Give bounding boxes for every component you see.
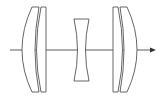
lens-element-2 (37, 7, 47, 92)
lens-diagram-svg (0, 0, 165, 101)
axis-arrow-icon (150, 48, 156, 53)
lens-diagram (0, 0, 165, 101)
lens-element-3 (113, 7, 123, 92)
